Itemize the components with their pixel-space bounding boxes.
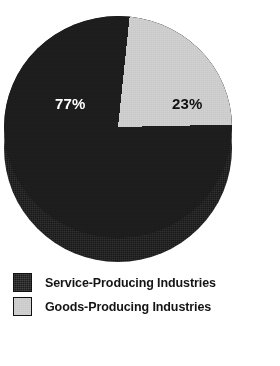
pie-chart-figure: 77% 23% Service-Producing Industries Goo…	[0, 0, 279, 366]
legend-item-goods: Goods-Producing Industries	[13, 296, 213, 317]
slice-label-service: 77%	[55, 95, 86, 112]
legend-swatch-light-icon	[13, 297, 32, 316]
legend-swatch-dark-icon	[13, 273, 32, 292]
chart-legend: Service-Producing Industries Goods-Produ…	[13, 272, 213, 320]
pie-chart: 77% 23%	[0, 0, 240, 272]
legend-swatch-texture	[14, 274, 31, 291]
source-note-line-2: and Earnings, January 1992,	[256, 362, 268, 366]
legend-label-service: Service-Producing Industries	[45, 276, 216, 290]
slice-label-goods: 23%	[172, 95, 203, 112]
legend-item-service: Service-Producing Industries	[13, 272, 213, 293]
source-note: [Source: BLS, Employment and Earnings, J…	[245, 362, 280, 366]
source-note-line-3: p. 238, 1991 annual averages]	[268, 362, 280, 366]
source-note-line-1: [Source: BLS, Employment	[245, 362, 257, 366]
pie-top-face	[4, 16, 232, 238]
slice-separator-line	[235, 166, 240, 206]
legend-swatch-texture	[14, 298, 31, 315]
legend-label-goods: Goods-Producing Industries	[45, 300, 211, 314]
pie-slice-group	[4, 16, 232, 238]
